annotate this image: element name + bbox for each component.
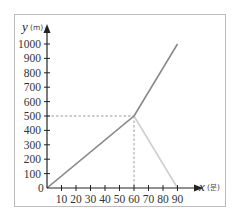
- y-tick-label: 700: [24, 81, 42, 93]
- x-axis-label: x: [198, 179, 205, 194]
- y-tick-label: 800: [24, 67, 42, 79]
- x-tick-label: 40: [99, 193, 111, 205]
- y-tick-label: 300: [24, 139, 42, 151]
- y-tick-label: 400: [24, 124, 42, 136]
- line-chart: 1002003004005006007008009001000102030405…: [0, 0, 237, 218]
- x-tick-label: 30: [85, 193, 97, 205]
- x-tick-label: 80: [157, 193, 169, 205]
- origin-label: 0: [38, 182, 44, 194]
- x-tick-label: 60: [128, 193, 140, 205]
- y-tick-label: 600: [24, 96, 42, 108]
- chart-frame: [15, 15, 226, 207]
- y-tick-label: 900: [24, 52, 42, 64]
- x-tick-label: 50: [114, 193, 126, 205]
- x-tick-label: 90: [172, 193, 184, 205]
- y-axis-unit: (m): [30, 23, 43, 32]
- y-tick-label: 500: [24, 110, 42, 122]
- y-tick-label: 100: [24, 168, 42, 180]
- y-axis-label: y: [20, 19, 28, 34]
- y-tick-label: 200: [24, 153, 42, 165]
- y-tick-label: 1000: [18, 38, 41, 50]
- x-axis-unit: (분): [207, 183, 220, 192]
- x-tick-label: 70: [143, 193, 155, 205]
- x-tick-label: 20: [70, 193, 82, 205]
- x-tick-label: 10: [56, 193, 68, 205]
